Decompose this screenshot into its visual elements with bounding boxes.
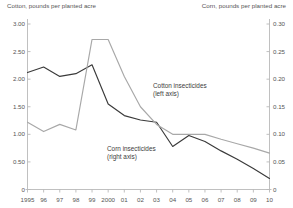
annotation-corn-line1: Corn insecticides: [107, 145, 156, 153]
annotation-corn-line2: (right axis): [107, 153, 156, 161]
chart-figure: Cotton, pounds per planted acre Corn, po…: [0, 0, 293, 208]
annotation-cotton: Cotton insecticides (left axis): [153, 82, 207, 99]
plot-area: [0, 0, 293, 208]
annotation-cotton-line1: Cotton insecticides: [153, 82, 207, 90]
annotation-cotton-line2: (left axis): [153, 90, 207, 98]
annotation-corn: Corn insecticides (right axis): [107, 145, 156, 162]
